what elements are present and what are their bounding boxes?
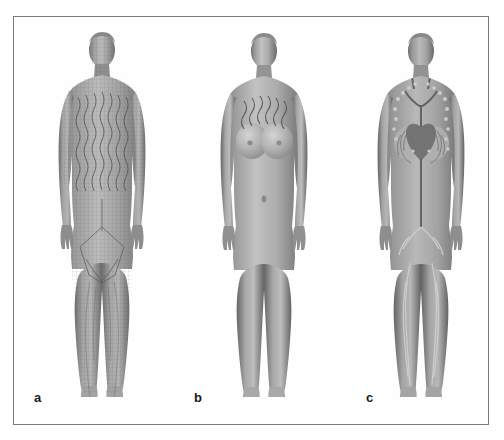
figure-body-c — [378, 33, 465, 397]
panel-a: a — [18, 17, 186, 424]
figure-body-a — [40, 31, 164, 397]
navel-b — [262, 196, 267, 203]
figure-border-frame: a — [13, 16, 489, 425]
panel-label-a: a — [34, 391, 41, 404]
panel-b: b — [186, 17, 346, 424]
panel-label-b: b — [194, 391, 202, 404]
figure-body-b — [221, 33, 308, 397]
breast-left-b — [261, 123, 293, 159]
hand-right-a — [61, 225, 74, 249]
internal-anatomy-body-model — [358, 31, 484, 397]
figure-root: a — [0, 0, 504, 440]
nipple-left-b — [276, 141, 281, 146]
smooth-surface-body-model — [200, 31, 328, 397]
torso-b — [223, 76, 306, 270]
wireframe-mesh-body-model — [40, 31, 164, 397]
panel-label-c: c — [366, 391, 373, 404]
hand-left-a — [131, 225, 144, 249]
hand-right-b — [223, 226, 236, 250]
foot-right-b — [243, 387, 260, 397]
leg-right-b — [237, 264, 264, 395]
hand-left-c — [450, 226, 463, 250]
leg-left-b — [264, 264, 291, 395]
nipple-right-b — [247, 141, 252, 146]
foot-right-c — [400, 387, 417, 397]
foot-left-b — [268, 387, 285, 397]
foot-left-c — [425, 387, 442, 397]
hand-right-c — [380, 226, 393, 250]
hand-left-b — [293, 226, 306, 250]
panel-c: c — [346, 17, 488, 424]
